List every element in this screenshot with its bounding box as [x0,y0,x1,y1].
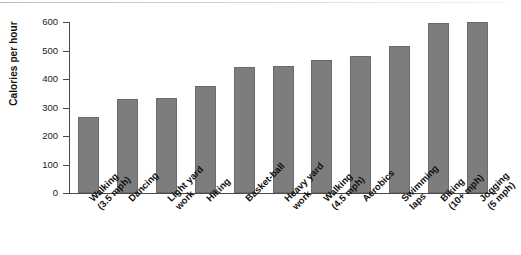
y-tick-label: 600 [12,17,58,27]
y-tick-label-wrap: 400 [10,79,58,80]
y-tick-label: 400 [12,74,58,84]
y-tick-label: 300 [12,103,58,113]
y-tick-label-wrap: 200 [10,136,58,137]
y-tick-label: 200 [12,131,58,141]
y-tick-label-wrap: 300 [10,108,58,109]
page-top-rule [0,2,505,3]
y-tick-label: 100 [12,160,58,170]
y-tick-label-wrap: 500 [10,51,58,52]
y-tick-label-wrap: 600 [10,22,58,23]
bar [78,117,99,193]
y-tick-label-wrap: 100 [10,165,58,166]
y-tick-label-wrap: 0 [10,193,58,194]
y-tick-label: 500 [12,46,58,56]
x-axis-category-labels: Walking(3.5 mph)DancingLight yardworkHik… [69,196,497,255]
y-tick-label: 0 [12,188,58,198]
y-tick-mark [63,193,69,194]
